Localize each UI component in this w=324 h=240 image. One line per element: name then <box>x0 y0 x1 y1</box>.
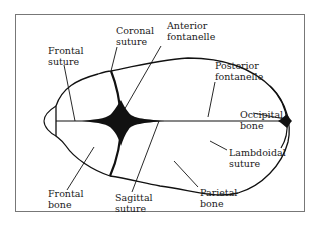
leader-frontal-suture <box>64 65 75 121</box>
leader-lambdoidal <box>210 141 227 150</box>
label-parietal-bone: Parietal bone <box>200 188 237 209</box>
label-sagittal-suture: Sagittal suture <box>115 193 153 214</box>
label-frontal-bone: Frontal bone <box>48 189 84 210</box>
forehead-bump <box>44 106 56 136</box>
label-coronal-suture: Coronal suture <box>116 26 154 47</box>
label-frontal-suture: Frontal suture <box>48 46 84 67</box>
label-occipital-bone: Occipital bone <box>240 110 283 131</box>
leader-frontal-bone <box>67 147 94 190</box>
label-anterior-fontanelle: Anterior fontanelle <box>167 21 215 42</box>
leader-coronal <box>111 47 117 71</box>
leader-sagittal <box>132 121 159 192</box>
leader-anterior-fontanelle <box>123 46 161 112</box>
leader-posterior-fontanelle <box>208 82 215 117</box>
leader-parietal <box>174 161 198 187</box>
label-posterior-fontanelle: Posterior fontanelle <box>215 61 263 82</box>
label-lambdoidal-suture: Lambdoidal suture <box>229 148 286 169</box>
